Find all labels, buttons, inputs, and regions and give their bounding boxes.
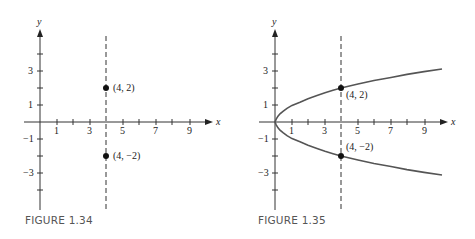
x-axis-label: x — [450, 116, 456, 127]
point-label-4-2: (4, 2) — [346, 89, 368, 101]
point-label-4-2: (4, 2) — [113, 82, 135, 94]
point-4-2 — [338, 85, 344, 91]
x-axis-label: x — [215, 116, 221, 127]
figure-1-35: (4, 2) (4, −2) 1 3 5 7 9 3 1 −1 −3 y x F… — [237, 0, 475, 239]
y-tick-label-neg1: −1 — [258, 133, 269, 144]
y-tick-label-1: 1 — [263, 99, 268, 110]
figure-1-34-plot: (4, 2) (4, −2) 1 3 5 7 9 3 1 −1 −3 y x — [0, 0, 237, 239]
y-tick-label-neg3: −3 — [258, 167, 269, 178]
y-tick-label-neg3: −3 — [23, 167, 34, 178]
x-tick-label-9: 9 — [422, 125, 427, 136]
y-tick-label-1: 1 — [28, 99, 33, 110]
y-axis-label: y — [36, 16, 42, 27]
figure-1-34: (4, 2) (4, −2) 1 3 5 7 9 3 1 −1 −3 y x F… — [0, 0, 237, 239]
x-tick-label-5: 5 — [120, 125, 125, 136]
point-4-2 — [103, 85, 109, 91]
point-label-4-neg2: (4, −2) — [346, 141, 373, 153]
x-tick-label-7: 7 — [153, 125, 158, 136]
y-axis-label: y — [271, 16, 277, 27]
x-tick-label-1: 1 — [54, 125, 59, 136]
x-axis-arrow-icon — [205, 119, 213, 125]
x-tick-label-7: 7 — [388, 125, 393, 136]
y-tick-label-neg1: −1 — [23, 133, 34, 144]
point-4-neg2 — [103, 153, 109, 159]
figure-1-35-plot: (4, 2) (4, −2) 1 3 5 7 9 3 1 −1 −3 y x — [237, 0, 475, 239]
x-tick-label-5: 5 — [355, 125, 360, 136]
x-tick-label-3: 3 — [322, 125, 327, 136]
y-tick-label-3: 3 — [28, 65, 33, 76]
x-tick-label-9: 9 — [187, 125, 192, 136]
x-tick-label-3: 3 — [87, 125, 92, 136]
y-tick-label-3: 3 — [263, 65, 268, 76]
y-axis-arrow-icon — [37, 29, 43, 37]
figure-caption: FIGURE 1.34 — [25, 214, 93, 226]
y-axis-arrow-icon — [272, 29, 278, 37]
x-tick-label-1: 1 — [289, 125, 294, 136]
figure-caption: FIGURE 1.35 — [258, 214, 326, 226]
point-4-neg2 — [338, 153, 344, 159]
point-label-4-neg2: (4, −2) — [113, 150, 140, 162]
x-axis-arrow-icon — [440, 119, 448, 125]
